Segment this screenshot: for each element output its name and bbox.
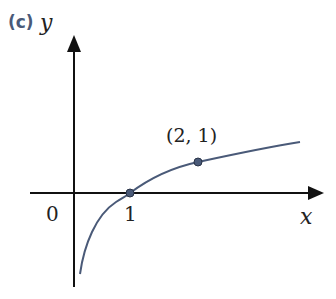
x-axis-label: x (300, 204, 312, 229)
plot-area (0, 0, 336, 299)
chart: (c) y x 0 1 (2, 1) (0, 0, 336, 299)
y-axis-label: y (40, 10, 52, 35)
point-annotation: (2, 1) (166, 124, 217, 146)
point-1-0 (126, 189, 134, 197)
panel-label: (c) (8, 12, 34, 32)
x-axis-arrow-icon (308, 186, 324, 200)
x-tick-1-label: 1 (124, 202, 137, 226)
y-axis-arrow-icon (67, 35, 81, 52)
log-curve (80, 142, 300, 274)
origin-label: 0 (46, 202, 59, 226)
point-2-1 (194, 158, 202, 166)
